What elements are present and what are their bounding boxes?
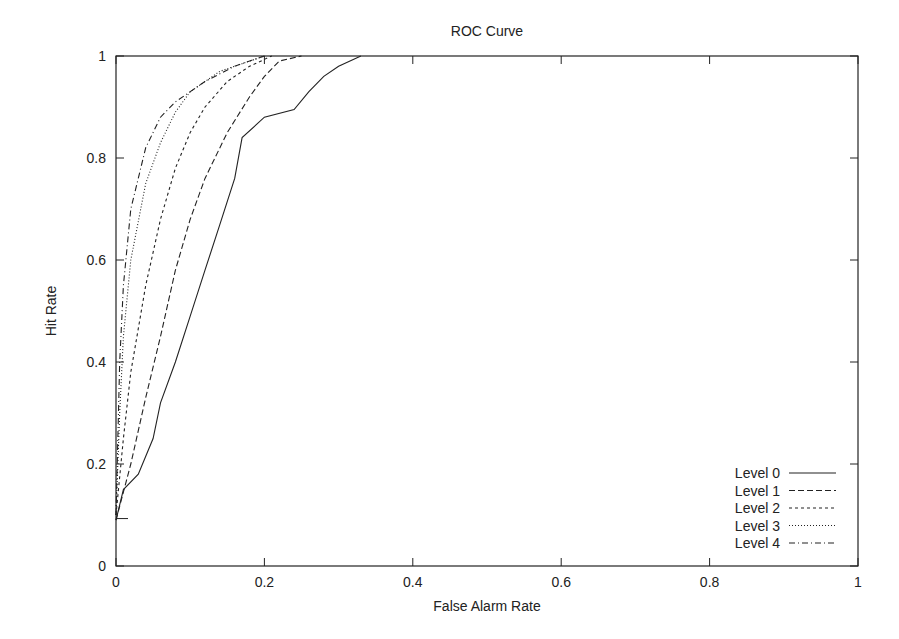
- y-tick-label: 0.6: [87, 252, 107, 268]
- legend: Level 0Level 1Level 2Level 3Level 4: [735, 465, 836, 551]
- series-line-level-4: [116, 56, 264, 515]
- x-tick-label: 0.4: [403, 574, 423, 590]
- series-line-level-3: [116, 56, 264, 515]
- x-axis-title: False Alarm Rate: [433, 598, 541, 614]
- legend-label: Level 4: [735, 535, 780, 551]
- series-line-level-0: [116, 56, 361, 520]
- legend-label: Level 2: [735, 500, 780, 516]
- x-tick-label: 1: [854, 574, 862, 590]
- x-tick-label: 0.2: [255, 574, 275, 590]
- x-tick-label: 0.6: [551, 574, 571, 590]
- legend-label: Level 1: [735, 483, 780, 499]
- y-tick-label: 0: [98, 558, 106, 574]
- y-tick-label: 0.4: [87, 354, 107, 370]
- series-line-level-1: [116, 56, 302, 520]
- y-tick-label: 0.8: [87, 150, 107, 166]
- legend-label: Level 3: [735, 518, 780, 534]
- y-tick-label: 1: [98, 48, 106, 64]
- series-line-level-2: [116, 56, 272, 515]
- legend-label: Level 0: [735, 465, 780, 481]
- y-tick-label: 0.2: [87, 456, 107, 472]
- x-tick-label: 0.8: [700, 574, 720, 590]
- series-lines: [116, 56, 361, 520]
- roc-chart: ROC Curve 00.20.40.60.81 00.20.40.60.81 …: [0, 0, 899, 639]
- chart-title: ROC Curve: [451, 23, 524, 39]
- y-axis-title: Hit Rate: [43, 286, 59, 337]
- x-tick-label: 0: [112, 574, 120, 590]
